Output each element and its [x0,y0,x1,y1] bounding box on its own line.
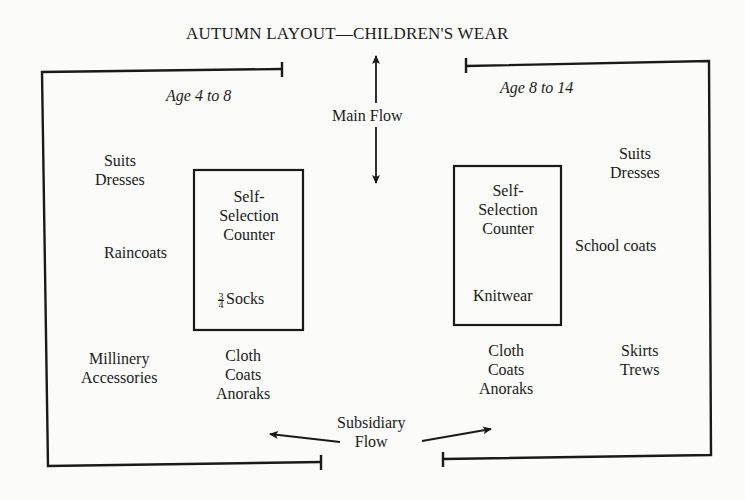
right-school-coats: School coats [575,236,656,255]
section-heading-left: Age 4 to 8 [166,86,231,105]
wall-right [443,61,711,459]
right-suits-dresses: Suits Dresses [610,144,660,182]
wall-left [42,69,321,466]
left-counter-item: 3 4 Socks [218,289,264,308]
left-counter-label: Self- Selection Counter [213,187,285,244]
left-raincoats: Raincoats [104,243,167,262]
right-counter-label: Self- Selection Counter [472,181,544,238]
left-millinery-accessories: Millinery Accessories [81,349,157,387]
subsidiary-flow-label: Subsidiary Flow [337,413,405,451]
diagram-title: AUTUMN LAYOUT—CHILDREN'S WEAR [186,24,508,43]
section-heading-right: Age 8 to 14 [500,78,573,97]
left-cloth-coats-anoraks: Cloth Coats Anoraks [216,346,270,403]
right-cloth-coats-anoraks: Cloth Coats Anoraks [479,341,533,398]
right-skirts-trews: Skirts Trews [620,341,659,379]
main-flow-label: Main Flow [332,106,403,125]
three-quarter-fraction: 3 4 [218,293,224,308]
left-suits-dresses: Suits Dresses [95,151,145,189]
right-counter-item: Knitwear [473,286,533,305]
